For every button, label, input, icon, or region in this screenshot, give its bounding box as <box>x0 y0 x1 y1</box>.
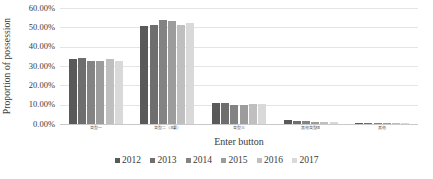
plot-area <box>60 8 418 124</box>
legend-swatch-icon <box>257 158 262 163</box>
x-axis-category-label: 其他 <box>348 125 416 131</box>
legend-item[interactable]: 2016 <box>257 155 284 165</box>
bar <box>78 58 86 124</box>
bar <box>401 123 409 124</box>
legend-swatch-icon <box>292 158 297 163</box>
bar <box>311 122 319 125</box>
bar <box>177 25 185 124</box>
x-axis-title: Enter button <box>60 136 418 147</box>
bar <box>230 105 238 124</box>
y-axis-tick-label: 20.00% <box>13 81 55 90</box>
x-axis-category-label: 类型三 <box>205 125 273 131</box>
bar <box>374 123 382 124</box>
x-axis-category-label: 类型二（主要） <box>133 125 201 131</box>
legend-label: 2015 <box>229 155 248 165</box>
bar <box>320 122 328 124</box>
legend-swatch-icon <box>186 158 191 163</box>
bar-group <box>132 8 204 124</box>
y-axis-title: Proportion of possession <box>0 0 14 132</box>
bar-chart: Proportion of possession 60.00%50.00%40.… <box>0 0 433 179</box>
y-axis-tick-label: 50.00% <box>13 23 55 32</box>
bar <box>87 61 95 124</box>
bar <box>186 23 194 124</box>
legend-item[interactable]: 2012 <box>115 155 142 165</box>
y-axis-tick-label: 30.00% <box>13 62 55 71</box>
bar-group <box>60 8 132 124</box>
bar-group <box>203 8 275 124</box>
bar-group <box>275 8 347 124</box>
bar <box>168 21 176 124</box>
y-axis-tick-label: 10.00% <box>13 100 55 109</box>
x-axis-category-labels: 类型一类型二（主要）类型三其他类型组其他 <box>60 125 418 136</box>
legend-swatch-icon <box>115 158 120 163</box>
legend-label: 2012 <box>122 155 141 165</box>
y-axis-tick-label: 40.00% <box>13 42 55 51</box>
bar <box>159 20 167 124</box>
y-axis-tick-labels: 60.00%50.00%40.00%30.00%20.00%10.00%0.00… <box>14 8 58 124</box>
legend-label: 2013 <box>158 155 177 165</box>
bar <box>140 26 148 124</box>
bar <box>258 104 266 124</box>
legend-swatch-icon <box>150 158 155 163</box>
legend-item[interactable]: 2015 <box>221 155 248 165</box>
bar <box>115 61 123 124</box>
chart-legend: 201220132014201520162017 <box>0 155 433 165</box>
bar <box>221 103 229 124</box>
bar <box>364 123 372 124</box>
legend-label: 2016 <box>264 155 283 165</box>
bar <box>249 104 257 124</box>
y-axis-tick-label: 60.00% <box>13 4 55 13</box>
x-axis-category-label: 类型一 <box>62 125 130 131</box>
bar <box>212 103 220 124</box>
legend-item[interactable]: 2017 <box>292 155 319 165</box>
bar-group <box>346 8 418 124</box>
bar <box>284 120 292 124</box>
bar <box>392 123 400 124</box>
legend-label: 2014 <box>193 155 212 165</box>
legend-item[interactable]: 2014 <box>186 155 213 165</box>
y-axis-tick-label: 0.00% <box>13 120 55 129</box>
legend-item[interactable]: 2013 <box>150 155 177 165</box>
bar <box>355 123 363 124</box>
legend-label: 2017 <box>300 155 319 165</box>
bar <box>106 59 114 124</box>
bar <box>330 122 338 124</box>
bar <box>240 105 248 124</box>
legend-swatch-icon <box>221 158 226 163</box>
bar <box>150 25 158 124</box>
bar <box>293 121 301 124</box>
bar <box>383 123 391 124</box>
y-axis-title-text: Proportion of possession <box>2 18 12 114</box>
bar <box>69 59 77 124</box>
bars-layer <box>60 8 418 124</box>
bar <box>96 61 104 124</box>
x-axis-category-label: 其他类型组 <box>277 125 345 131</box>
bar <box>302 121 310 124</box>
